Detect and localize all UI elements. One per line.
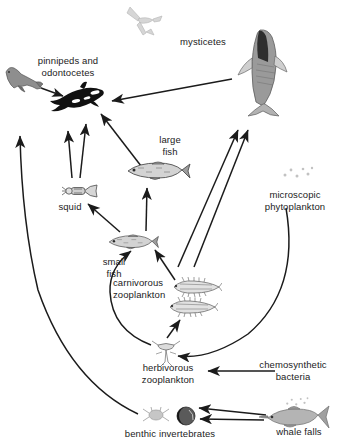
food-web-canvas xyxy=(0,0,342,448)
edge-benthic-to-pinnipeds xyxy=(20,136,138,414)
large-fish-icon xyxy=(128,162,190,180)
edge-smallfish-to-squid xyxy=(88,204,120,232)
small-fish-icon xyxy=(109,235,158,249)
edge-herbzoop-to-carnzoop xyxy=(167,320,180,338)
edge-whalefalls-to-carcass xyxy=(200,419,264,420)
benthic-invertebrate-icon xyxy=(143,407,169,421)
food-web-diagram: pinnipeds and odontocetes mysticetes lar… xyxy=(0,0,342,448)
edge-herbzoop-to-smallfish xyxy=(110,251,151,345)
edge-mysticetes-to-odontocetes xyxy=(112,79,232,101)
copepod-icon xyxy=(152,341,180,366)
whale-carcass-icon xyxy=(177,407,195,425)
seabird-icon xyxy=(127,7,162,35)
edge-squid-to-pinnipeds xyxy=(68,131,72,178)
edge-squid-to-odontocetes xyxy=(80,124,86,178)
bacteria-dots-icon xyxy=(286,397,308,405)
baleen-whale-icon xyxy=(238,30,287,116)
edge-zoop-to-mysticetes-b xyxy=(194,130,248,267)
krill-icon-lower xyxy=(170,297,218,317)
edge-carnzoop-to-smallfish xyxy=(155,250,175,280)
krill-icon-upper xyxy=(174,277,222,297)
edge-zoop-to-mysticetes-a xyxy=(178,130,238,267)
edge-pinnipeds-to-odontocetes xyxy=(41,88,63,96)
seal-icon xyxy=(6,68,43,93)
phytoplankton-dots-icon xyxy=(284,167,314,178)
edge-whalefalls-to-benthic xyxy=(199,408,266,415)
node-artwork-layer xyxy=(6,7,329,428)
edge-smallfish-to-largefish xyxy=(146,188,147,231)
dead-whale-icon xyxy=(259,406,329,428)
orca-icon xyxy=(50,82,104,111)
squid-icon xyxy=(62,185,97,197)
